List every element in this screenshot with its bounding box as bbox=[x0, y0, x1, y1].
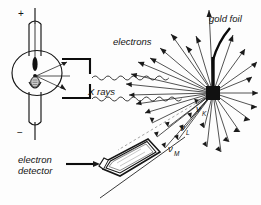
collimator-upper-jaw bbox=[62, 59, 90, 74]
physics-diagram-figure: + − X rays gold foil bbox=[0, 0, 261, 205]
minus-terminal-label: − bbox=[17, 127, 23, 138]
plus-terminal-label: + bbox=[18, 8, 24, 19]
diagram-canvas: + − X rays gold foil bbox=[0, 0, 261, 205]
interaction-point bbox=[206, 86, 220, 100]
foil-leader-curve bbox=[213, 28, 230, 60]
cathode-filament bbox=[31, 77, 40, 87]
nu-m-subscript: M bbox=[174, 150, 180, 157]
nu-l-symbol: ν bbox=[180, 122, 185, 133]
shell-label-nu-l: ν L bbox=[180, 122, 190, 136]
collimator bbox=[62, 59, 90, 98]
nu-m-symbol: ν bbox=[168, 143, 173, 154]
anode-target bbox=[32, 57, 37, 71]
electrons-label: electrons bbox=[113, 36, 152, 47]
tube-glass-bulb bbox=[12, 51, 62, 96]
collimator-lower-jaw bbox=[62, 84, 90, 98]
tube-neck-lower bbox=[29, 92, 41, 122]
x-ray-tube bbox=[12, 8, 70, 140]
electron-detector-callout bbox=[66, 161, 100, 167]
x-ray-wave-lower bbox=[92, 97, 182, 101]
internal-x-ray-fan bbox=[36, 62, 70, 90]
electron-detector-label-line2: detector bbox=[18, 165, 53, 176]
gold-foil-label: gold foil bbox=[209, 13, 243, 24]
electron-detector-housing bbox=[99, 139, 160, 176]
nu-l-subscript: L bbox=[186, 129, 190, 136]
nu-k-symbol: ν bbox=[196, 103, 201, 114]
x-ray-wave-upper bbox=[92, 76, 169, 80]
electron-detector-label-line1: electron bbox=[18, 154, 52, 165]
ray-to-detector bbox=[118, 93, 213, 150]
nu-k-subscript: K bbox=[202, 110, 207, 117]
x-rays-label: X rays bbox=[87, 86, 115, 97]
shell-label-nu-k: ν K bbox=[196, 103, 207, 117]
